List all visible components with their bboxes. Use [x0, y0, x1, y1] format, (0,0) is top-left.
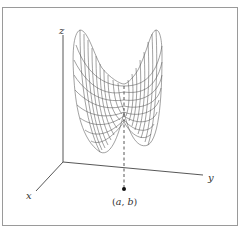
point-label: (a, b)	[112, 196, 137, 207]
z-axis-label: z	[58, 25, 65, 36]
axes	[36, 35, 203, 191]
x-axis-label: x	[26, 190, 32, 201]
y-axis	[63, 162, 203, 175]
saddle-surface	[73, 30, 162, 153]
y-axis-label: y	[207, 172, 214, 183]
x-axis	[36, 162, 63, 191]
point-a-b	[122, 187, 126, 191]
saddle-diagram: z y x (a, b)	[0, 0, 243, 235]
